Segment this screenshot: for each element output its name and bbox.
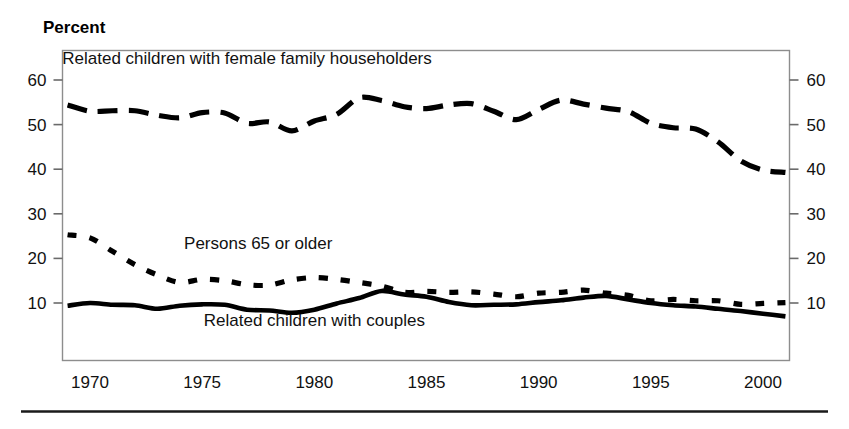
y-tick-label-left-30: 30: [28, 205, 47, 224]
series-label-2: Related children with couples: [204, 311, 425, 330]
series-label-1: Persons 65 or older: [184, 234, 333, 253]
percent-in-poverty-line-chart: Percent 102030405060 102030405060 197019…: [0, 0, 849, 429]
y-tick-label-left-60: 60: [28, 71, 47, 90]
y-tick-label-right-10: 10: [807, 294, 826, 313]
x-tick-label-1975: 1975: [183, 373, 221, 392]
x-tick-label-1980: 1980: [295, 373, 333, 392]
y-tick-label-left-10: 10: [28, 294, 47, 313]
y-tick-label-right-60: 60: [807, 71, 826, 90]
y-tick-label-left-20: 20: [28, 249, 47, 268]
y-axis-title: Percent: [43, 18, 106, 37]
x-tick-label-2000: 2000: [744, 373, 782, 392]
y-tick-label-right-30: 30: [807, 205, 826, 224]
series-label-0: Related children with female family hous…: [62, 49, 431, 68]
x-tick-label-1995: 1995: [632, 373, 670, 392]
y-tick-label-right-50: 50: [807, 116, 826, 135]
x-tick-label-1985: 1985: [408, 373, 446, 392]
x-tick-label-1970: 1970: [71, 373, 109, 392]
x-tick-label-1990: 1990: [520, 373, 558, 392]
y-tick-label-left-40: 40: [28, 160, 47, 179]
y-tick-label-right-40: 40: [807, 160, 826, 179]
y-tick-label-right-20: 20: [807, 249, 826, 268]
y-tick-label-left-50: 50: [28, 116, 47, 135]
